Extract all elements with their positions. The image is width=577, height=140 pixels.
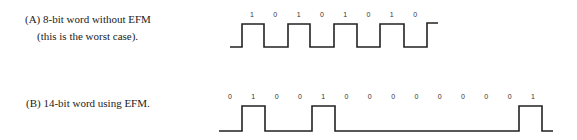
bit-label: 0 <box>275 93 279 100</box>
bit-label: 0 <box>484 93 488 100</box>
bit-label: 0 <box>508 93 512 100</box>
bit-labels-a: 10101010 <box>250 11 417 18</box>
bit-label: 1 <box>531 93 535 100</box>
bit-label: 1 <box>251 93 255 100</box>
bit-label: 0 <box>461 93 465 100</box>
bit-label: 1 <box>250 11 254 18</box>
bit-label: 0 <box>368 93 372 100</box>
waveform-a: 10101010 <box>230 11 438 47</box>
bit-label: 0 <box>367 11 371 18</box>
bit-label: 0 <box>320 11 324 18</box>
bit-label: 0 <box>345 93 349 100</box>
bit-label: 1 <box>343 11 347 18</box>
bit-label: 1 <box>390 11 394 18</box>
waveform-diagrams: 10101010 01001000000001 <box>0 0 577 140</box>
bit-label: 0 <box>228 93 232 100</box>
bit-label: 0 <box>414 93 418 100</box>
bit-label: 0 <box>413 11 417 18</box>
bit-label: 0 <box>273 11 277 18</box>
bit-label: 0 <box>298 93 302 100</box>
bit-label: 0 <box>391 93 395 100</box>
bit-label: 1 <box>297 11 301 18</box>
bit-label: 0 <box>438 93 442 100</box>
bit-labels-b: 01001000000001 <box>228 93 535 100</box>
bit-label: 1 <box>321 93 325 100</box>
waveform-b: 01001000000001 <box>219 93 553 131</box>
